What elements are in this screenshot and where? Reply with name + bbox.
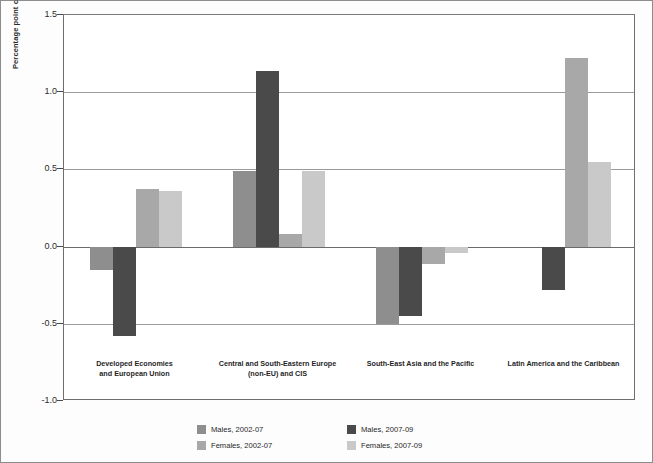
legend-item: Females, 2002-07: [197, 441, 347, 450]
y-axis-title: Percentage point change in labour force …: [11, 0, 20, 69]
chart-figure: Percentage point change in labour force …: [0, 0, 653, 463]
bar: [565, 58, 588, 246]
plot-area: [63, 14, 635, 400]
bar: [399, 247, 422, 316]
legend-item: Males, 2002-07: [197, 425, 347, 434]
bar: [542, 247, 565, 290]
gridline: [64, 324, 634, 325]
y-axis-tick-label: 1.0: [27, 86, 57, 96]
bar: [136, 189, 159, 246]
y-axis-tickmark: [57, 168, 63, 169]
y-axis-tickmark: [57, 14, 63, 15]
legend-label: Females, 2002-07: [211, 441, 272, 450]
bar: [256, 71, 279, 247]
bar: [159, 191, 182, 247]
chart-legend: Males, 2002-07Males, 2007-09Females, 200…: [197, 421, 497, 455]
bar: [233, 171, 256, 247]
legend-item: Males, 2007-09: [347, 425, 497, 434]
bar: [588, 162, 611, 247]
bar: [90, 247, 113, 270]
y-axis-tick-label: -0.5: [27, 318, 57, 328]
y-axis-tickmark: [57, 400, 63, 401]
legend-label: Females, 2007-09: [361, 441, 422, 450]
bar: [422, 247, 445, 264]
y-axis-tickmark: [57, 91, 63, 92]
legend-swatch-icon: [197, 425, 206, 434]
y-axis-tick-label: -1.0: [27, 395, 57, 405]
legend-swatch-icon: [347, 425, 356, 434]
y-axis-tickmark: [57, 246, 63, 247]
bar: [279, 234, 302, 246]
bar: [376, 247, 399, 324]
bar: [445, 247, 468, 253]
legend-swatch-icon: [347, 441, 356, 450]
gridline: [64, 169, 634, 170]
legend-item: Females, 2007-09: [347, 441, 497, 450]
legend-swatch-icon: [197, 441, 206, 450]
x-axis-group-label: Latin America and the Caribbean: [478, 359, 649, 369]
y-axis-tick-label: 1.5: [27, 9, 57, 19]
y-axis-tick-label: 0.0: [27, 241, 57, 251]
gridline: [64, 92, 634, 93]
bar: [113, 247, 136, 337]
bar: [302, 171, 325, 247]
legend-label: Males, 2007-09: [361, 425, 413, 434]
y-axis-tick-label: 0.5: [27, 163, 57, 173]
legend-label: Males, 2002-07: [211, 425, 263, 434]
y-axis-tickmark: [57, 323, 63, 324]
y-axis-tick-labels: 1.51.00.50.0-0.5-1.0: [23, 1, 57, 463]
